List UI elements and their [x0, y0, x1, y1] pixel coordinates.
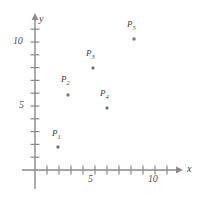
x-axis-label: x — [187, 163, 191, 174]
y-tick-label-10: 10 — [13, 35, 23, 46]
point-label-p4: P4 — [100, 88, 109, 100]
point-label-p2: P2 — [61, 74, 70, 86]
point-label-p2-sub: 2 — [67, 79, 70, 86]
x-tick-label-10: 10 — [148, 173, 158, 184]
point-label-p5: P5 — [127, 19, 136, 31]
data-point-marker-p5 — [132, 37, 135, 40]
data-point-marker-p4 — [105, 106, 108, 109]
data-point-marker-p1 — [56, 145, 59, 148]
y-tick-label-5: 5 — [19, 99, 24, 110]
data-point-marker-p2 — [66, 93, 69, 96]
data-point-markers — [56, 37, 135, 148]
point-label-p1-sub: 1 — [58, 133, 61, 140]
point-label-p3-sub: 3 — [92, 53, 95, 60]
scatter-plot-figure: 5 10 5 10 x y P1 P2 P3 P4 P5 — [0, 0, 201, 197]
point-label-p3: P3 — [86, 48, 95, 60]
x-axis-arrow-icon — [176, 167, 183, 174]
y-axis-arrow-icon — [32, 13, 39, 20]
x-tick-label-5: 5 — [88, 173, 93, 184]
point-label-p4-sub: 4 — [106, 93, 109, 100]
y-axis-label: y — [39, 13, 43, 24]
point-label-p1: P1 — [52, 128, 61, 140]
point-label-p5-sub: 5 — [133, 24, 136, 31]
data-point-marker-p3 — [91, 66, 94, 69]
